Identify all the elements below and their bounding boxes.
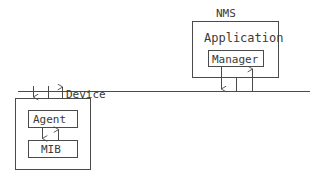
manager-label: Manager (212, 54, 258, 65)
diagram-canvas: NMS Application Manager Device Agent MIB (0, 0, 322, 177)
mib-label: MIB (41, 144, 61, 155)
agent-label: Agent (33, 114, 66, 125)
nms-box (193, 22, 279, 78)
device-label: Device (66, 89, 106, 100)
nms-label: NMS (216, 8, 236, 19)
device-box (16, 99, 91, 170)
application-label: Application (204, 32, 283, 44)
